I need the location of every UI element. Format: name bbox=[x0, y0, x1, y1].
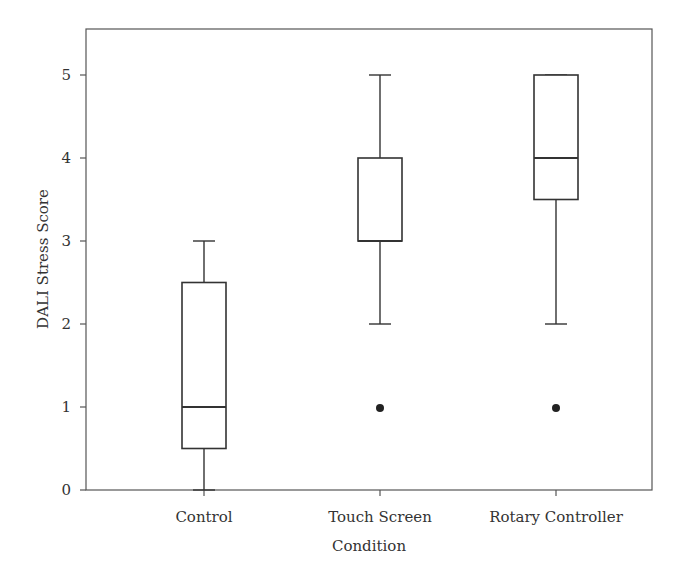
outlier-point bbox=[552, 404, 560, 412]
iqr-box bbox=[534, 75, 578, 200]
y-tick-label: 5 bbox=[61, 66, 71, 84]
y-axis-title: DALI Stress Score bbox=[34, 189, 52, 329]
box-control bbox=[182, 241, 226, 490]
outlier-point bbox=[376, 404, 384, 412]
box-rotary-controller bbox=[534, 75, 578, 412]
x-tick-label: Rotary Controller bbox=[489, 508, 624, 526]
iqr-box bbox=[182, 283, 226, 449]
x-tick-label: Control bbox=[175, 508, 232, 526]
y-tick-label: 2 bbox=[61, 315, 71, 333]
x-axis-title: Condition bbox=[332, 537, 406, 555]
iqr-box bbox=[358, 158, 402, 241]
x-axis: ControlTouch ScreenRotary Controller bbox=[175, 490, 623, 526]
boxes-group bbox=[182, 75, 578, 490]
y-tick-label: 4 bbox=[61, 149, 71, 167]
box-touch-screen bbox=[358, 75, 402, 412]
y-tick-label: 0 bbox=[61, 481, 71, 499]
y-tick-label: 1 bbox=[61, 398, 71, 416]
y-tick-label: 3 bbox=[61, 232, 71, 250]
y-axis: 012345 bbox=[61, 66, 86, 499]
box-plot: 012345 ControlTouch ScreenRotary Control… bbox=[0, 0, 687, 581]
x-tick-label: Touch Screen bbox=[328, 508, 432, 526]
